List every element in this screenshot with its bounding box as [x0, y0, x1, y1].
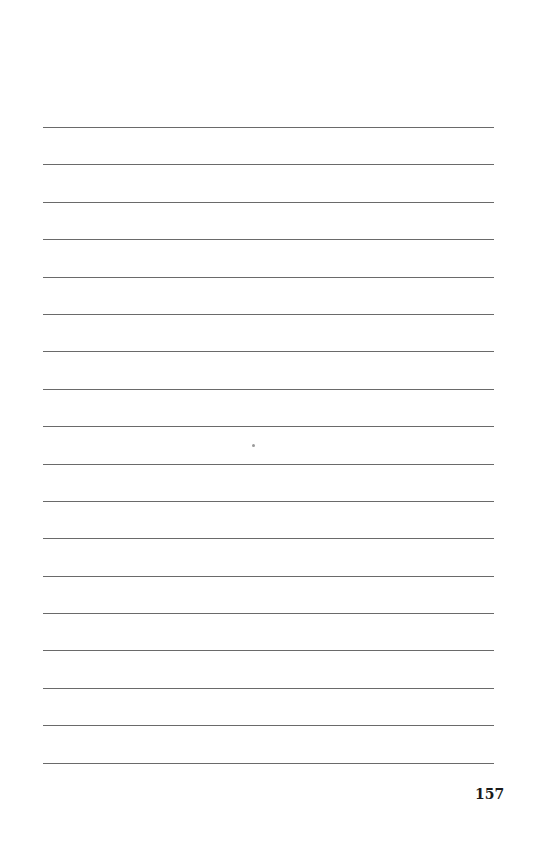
- ruled-line: [43, 127, 494, 128]
- ruled-line: [43, 202, 494, 203]
- page-number: 157: [475, 786, 504, 802]
- ruled-line: [43, 538, 494, 539]
- ruled-line: [43, 277, 494, 278]
- ruled-lines: [43, 127, 494, 800]
- ruled-line: [43, 389, 494, 390]
- ruled-line: [43, 688, 494, 689]
- ruled-line: [43, 725, 494, 726]
- ruled-line: [43, 464, 494, 465]
- ruled-line: [43, 501, 494, 502]
- ruled-line: [43, 613, 494, 614]
- speck-mark: [252, 444, 255, 447]
- ruled-line: [43, 239, 494, 240]
- ruled-line: [43, 650, 494, 651]
- ruled-line: [43, 426, 494, 427]
- ruled-line: [43, 576, 494, 577]
- ruled-line: [43, 351, 494, 352]
- ruled-line: [43, 314, 494, 315]
- ruled-line: [43, 164, 494, 165]
- ruled-line: [43, 763, 494, 764]
